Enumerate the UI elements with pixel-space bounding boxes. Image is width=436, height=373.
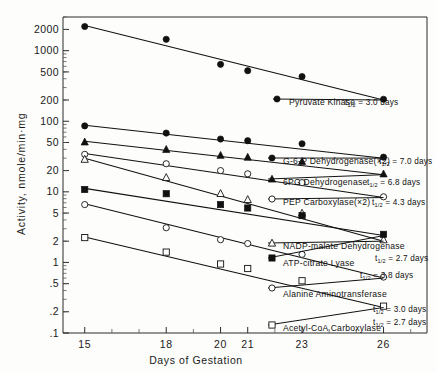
legend-half-life: t1/2 = 2.7 days [375, 254, 428, 264]
marker-open-circle [269, 196, 275, 202]
x-tick-label: 23 [296, 338, 309, 350]
marker-filled-triangle [163, 146, 170, 153]
marker-filled-circle [82, 23, 88, 29]
legend-label: G-6-P Dehydrogenase(×2) [283, 156, 390, 166]
marker-filled-circle [274, 96, 280, 102]
series-0 [82, 23, 387, 102]
x-tick-label: 15 [78, 338, 91, 350]
series-fit-line [85, 125, 384, 158]
marker-filled-square [217, 201, 223, 207]
marker-filled-square [269, 255, 275, 261]
marker-open-triangle [163, 174, 170, 181]
legend-label: NADP-malate Dehydrogenase [283, 241, 405, 251]
y-tick-label: 5 [53, 207, 59, 219]
y-axis-ticks: 20001000500200100502010521.5.2.1 [34, 17, 69, 339]
y-tick-label: 1000 [34, 44, 59, 56]
series-fit-line [85, 25, 384, 100]
marker-open-circle [269, 285, 275, 291]
legend-label: 6PG Dehydrogenase [283, 177, 368, 187]
legend-entry-1: G-6-P Dehydrogenase(×2)t1/2 = 7.0 days [268, 155, 432, 167]
marker-open-circle [163, 225, 169, 231]
legend-label: ATP-citrate Lyase [283, 258, 355, 268]
marker-open-circle [163, 161, 169, 167]
x-tick-label: 18 [160, 338, 173, 350]
legend-label: Alanine Aminotransferase [283, 289, 387, 299]
legend-label: PEP Carboxylase(×2) [283, 197, 370, 207]
marker-filled-circle [217, 136, 223, 142]
marker-filled-square [163, 191, 169, 197]
legend-half-life: t1/2 = 2.7 days [373, 318, 426, 328]
marker-open-circle [245, 240, 251, 246]
y-tick-label: 50 [47, 136, 59, 148]
legend-half-life: t1/2 = 6.8 days [367, 178, 420, 188]
marker-filled-triangle [217, 151, 224, 158]
series-1 [82, 123, 387, 160]
legend-group: Pyruvate Kinaset1/2 = 3.0 daysG-6-P Dehy… [268, 96, 432, 333]
marker-filled-triangle [380, 170, 387, 177]
y-tick-label: .1 [49, 327, 59, 339]
x-axis-title: Days of Gestation [149, 354, 243, 366]
marker-open-square [245, 265, 251, 271]
y-tick-label: 100 [40, 115, 59, 127]
marker-filled-triangle [244, 153, 251, 160]
y-tick-label: .2 [49, 305, 59, 317]
marker-filled-circle [217, 61, 223, 67]
marker-open-triangle [244, 196, 251, 203]
marker-filled-circle [245, 68, 251, 74]
marker-open-square [217, 261, 223, 267]
y-axis-title: Activity, nmole/min·mg [15, 113, 27, 235]
y-tick-label: 2 [53, 235, 59, 247]
x-tick-label: 21 [241, 338, 254, 350]
x-tick-label: 26 [377, 338, 390, 350]
y-tick-label: .5 [49, 277, 59, 289]
marker-open-circle [245, 171, 251, 177]
marker-filled-square [299, 213, 305, 219]
marker-open-square [269, 322, 275, 328]
y-tick-label: 10 [47, 185, 59, 197]
marker-open-square [299, 278, 305, 284]
y-tick-label: 2000 [34, 23, 59, 35]
y-tick-label: 1 [53, 256, 59, 268]
marker-open-circle [217, 167, 223, 173]
legend-label: Acetyl-CoA Carboxylase [283, 323, 381, 333]
legend-entry-2: 6PG Dehydrogenaset1/2 = 6.8 days [268, 175, 420, 189]
x-tick-label: 20 [214, 338, 227, 350]
marker-filled-square [245, 205, 251, 211]
marker-filled-circle [163, 130, 169, 136]
marker-filled-square [82, 186, 88, 192]
y-tick-label: 500 [40, 66, 59, 78]
series-fit-line [85, 188, 384, 235]
marker-open-square [163, 249, 169, 255]
y-tick-label: 200 [40, 94, 59, 106]
legend-leader-line [268, 278, 384, 288]
legend-half-life: t1/2 = 4.3 days [372, 198, 425, 208]
figure-panel: 20001000500200100502010521.5.2.1 1518202… [0, 0, 436, 373]
enzyme-activity-decay-chart: 20001000500200100502010521.5.2.1 1518202… [0, 0, 436, 373]
legend-entry-0: Pyruvate Kinaset1/2 = 3.0 days [273, 96, 398, 108]
legend-entry-6: Alanine Aminotransferaset1/2 = 3.0 days [268, 278, 426, 315]
marker-open-triangle [217, 190, 224, 197]
marker-filled-circle [299, 73, 305, 79]
marker-open-circle [82, 201, 88, 207]
marker-open-square [82, 234, 88, 240]
y-tick-label: 20 [47, 164, 59, 176]
marker-filled-circle [269, 155, 275, 161]
marker-open-circle [217, 237, 223, 243]
marker-filled-circle [245, 138, 251, 144]
legend-entry-3: PEP Carboxylase(×2)t1/2 = 4.3 days [268, 196, 425, 208]
marker-filled-circle [299, 141, 305, 147]
marker-filled-circle [163, 36, 169, 42]
marker-filled-circle [82, 123, 88, 129]
